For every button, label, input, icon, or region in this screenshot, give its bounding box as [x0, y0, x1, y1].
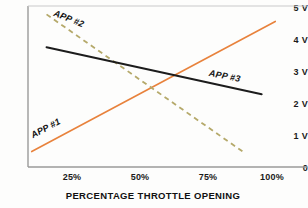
series-line-app1 — [32, 21, 276, 151]
chart-figure: 5 V 4 V 3 V 2 V 1 V 0 25% 50% 75% 100% A… — [0, 0, 308, 208]
series-line-app3 — [47, 47, 262, 94]
plot-area — [0, 0, 308, 208]
x-axis-title: PERCENTAGE THROTTLE OPENING — [28, 190, 278, 201]
